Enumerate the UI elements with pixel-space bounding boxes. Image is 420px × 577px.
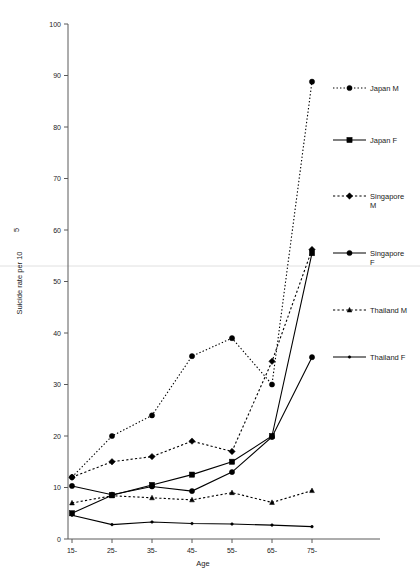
data-point-marker [151,521,154,524]
x-tick-label: 65- [267,547,278,554]
x-tick-label: 35- [147,547,158,554]
data-point-marker [229,336,234,341]
y-tick-label: 20 [53,433,61,440]
data-point-marker [189,438,195,444]
data-point-marker [311,525,314,528]
y-tick-label: 40 [53,330,61,337]
data-point-marker [231,523,234,526]
y-axis: 0102030405060708090100 [49,21,68,543]
y-tick-label: 30 [53,381,61,388]
legend-label: Japan M [370,84,399,93]
legend-label: F [370,258,375,267]
x-tick-label: 55- [227,547,238,554]
data-point-marker [309,79,314,84]
y-tick-label: 0 [57,536,61,543]
data-point-marker [71,514,74,517]
y-tick-label: 10 [53,484,61,491]
data-point-marker [149,413,154,418]
data-point-marker [189,354,194,359]
series-layer [69,79,315,528]
legend-label: Singapore [370,192,404,201]
legend-item-singapore-m[interactable]: SingaporeM [333,192,404,210]
legend-layer: Japan MJapan FSingaporeMSingaporeFThaila… [333,84,407,362]
y-tick-label: 80 [53,124,61,131]
y-axis-title: Suicide rate per 10 5 [12,228,24,315]
series-thailand-f [71,514,314,528]
legend-marker-sample [347,250,352,255]
y-tick-label: 50 [53,278,61,285]
series-singapore-m [69,246,315,480]
y-axis-title-text: Suicide rate per 10 [15,252,24,315]
y-tick-label: 70 [53,175,61,182]
series-japan-f [69,251,314,516]
data-point-marker [269,434,274,439]
legend-label: Japan F [370,136,398,145]
series-japan-m [69,79,314,480]
legend-marker-sample [347,85,352,90]
data-point-marker [230,490,235,495]
y-tick-label: 90 [53,72,61,79]
legend-item-thailand-f[interactable]: Thailand F [333,353,406,362]
data-point-marker [229,448,235,454]
data-point-marker [189,489,194,494]
data-point-marker [149,484,154,489]
legend-marker-sample [347,137,352,142]
legend-item-japan-m[interactable]: Japan M [333,84,399,93]
data-point-marker [269,358,275,364]
x-tick-label: 75- [307,547,318,554]
legend-label: Singapore [370,249,404,258]
y-axis-title-superscript: 5 [12,228,21,232]
x-tick-label: 15- [67,547,78,554]
legend-label: M [370,201,376,210]
data-point-marker [69,474,75,480]
data-point-marker [191,522,194,525]
data-point-marker [310,488,315,493]
legend-label: Thailand F [370,353,406,362]
legend-item-singapore-f[interactable]: SingaporeF [333,249,404,267]
chart-figure: 0102030405060708090100 15-25-35-45-55-65… [0,0,420,577]
legend-label: Thailand M [370,306,407,315]
x-tick-label: 45- [187,547,198,554]
y-tick-label: 100 [49,21,61,28]
legend-item-japan-f[interactable]: Japan F [333,136,398,145]
data-point-marker [269,382,274,387]
data-point-marker [111,523,114,526]
legend-marker-sample [346,193,352,199]
line-chart-svg: 0102030405060708090100 15-25-35-45-55-65… [0,0,420,577]
data-point-marker [69,483,74,488]
data-point-marker [149,453,155,459]
data-point-marker [271,524,274,527]
y-tick-label: 60 [53,227,61,234]
x-axis: 15-25-35-45-55-65-75- [67,539,380,554]
legend-marker-sample [348,356,351,359]
x-tick-label: 25- [107,547,118,554]
data-point-marker [229,469,234,474]
x-axis-title: Age [196,559,209,568]
data-point-marker [309,355,314,360]
legend-item-thailand-m[interactable]: Thailand M [333,306,407,315]
data-point-marker [109,459,115,465]
data-point-marker [229,459,234,464]
data-point-marker [109,433,114,438]
data-point-marker [189,472,194,477]
data-point-marker [150,495,155,500]
